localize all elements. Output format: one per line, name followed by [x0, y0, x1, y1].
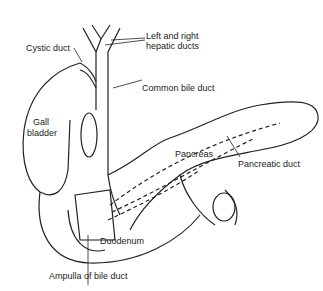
- label-common-bile-duct: Common bile duct: [142, 83, 215, 93]
- pancreatic-duct: [108, 123, 280, 220]
- label-bladder: bladder: [27, 128, 57, 138]
- label-duodenum: Duodenum: [100, 236, 144, 246]
- duodenum: [39, 175, 237, 263]
- label-hepatic-ducts-1: Left and right: [146, 31, 199, 41]
- label-gall: Gall: [33, 117, 49, 127]
- label-pancreatic-duct: Pancreatic duct: [238, 159, 300, 169]
- label-cystic-duct: Cystic duct: [26, 43, 70, 53]
- label-hepatic-ducts-2: hepatic ducts: [146, 41, 199, 51]
- anatomy-diagram: Left and right hepatic ducts Cystic duct…: [0, 0, 323, 291]
- label-ampulla: Ampulla of bile duct: [49, 271, 128, 281]
- hepatic-ducts: [83, 25, 120, 175]
- label-pancreas: Pancreas: [175, 149, 213, 159]
